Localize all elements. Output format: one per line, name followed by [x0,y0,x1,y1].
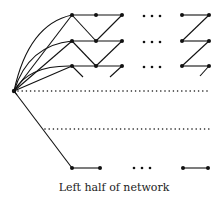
dotted-line-dot [63,90,65,92]
hub-node [12,89,16,93]
dotted-line-dot [135,90,137,92]
dotted-line-dot [189,90,191,92]
node [120,39,124,43]
dotted-line-dot [110,90,112,92]
dotted-line-dot [194,90,196,92]
dotted-line-dot [93,90,95,92]
dotted-line-dot [173,90,175,92]
dotted-line-dot [160,90,162,92]
dotted-line-dot [90,128,92,130]
dotted-line-dot [166,128,168,130]
dotted-line-dot [95,128,97,130]
dotted-line-dot [156,90,158,92]
dotted-line-dot [69,128,71,130]
hub-edge [14,91,72,168]
dotted-line-dot [86,128,88,130]
dotted-line-dot [164,90,166,92]
dotted-line-dot [114,90,116,92]
node [207,39,211,43]
dotted-line-dot [101,90,103,92]
dotted-line-dot [204,128,206,130]
node [180,13,184,17]
dotted-line-dot [42,90,44,92]
dotted-line-dot [208,128,210,130]
dotted-line-dot [177,90,179,92]
node [70,39,74,43]
dotted-line-dot [21,90,23,92]
ellipsis-dot [159,66,162,69]
dotted-line-dot [55,90,57,92]
node [94,39,98,43]
cross-edge [182,41,209,66]
node [98,166,102,170]
dotted-line-dot [103,128,105,130]
dotted-line-dot [118,90,120,92]
dotted-line-dot [147,90,149,92]
dotted-line-dot [76,90,78,92]
dotted-line-dot [51,90,53,92]
dotted-line-dot [152,90,154,92]
node [181,166,185,170]
hub-edge [14,66,72,91]
dotted-line-dot [57,128,59,130]
dotted-line-dot [59,90,61,92]
dotted-line-dot [122,90,124,92]
dotted-line-dot [206,90,208,92]
dotted-line-dot [82,128,84,130]
dotted-line-dot [143,90,145,92]
node [70,166,74,170]
dotted-line-dot [183,128,185,130]
node [207,13,211,17]
node [94,64,98,68]
node [180,39,184,43]
diagram-caption: Left half of network [0,181,224,194]
dotted-line-dot [158,128,160,130]
cross-edge [72,15,96,41]
dotted-line-dot [48,128,50,130]
dotted-line-dot [181,90,183,92]
dotted-line-dot [162,128,164,130]
dotted-line-dot [80,90,82,92]
ellipsis-dot [143,15,146,18]
dotted-line-dot [124,128,126,130]
dotted-line-dot [111,128,113,130]
dotted-line-dot [44,128,46,130]
dotted-line-dot [170,128,172,130]
dotted-line-dot [179,128,181,130]
dotted-line-dot [153,128,155,130]
dotted-line-dot [78,128,80,130]
dotted-line-dot [145,128,147,130]
dotted-line-dot [97,90,99,92]
stub-edge [110,66,122,77]
dotted-line-dot [38,90,40,92]
ellipsis-dot [151,66,154,69]
dotted-line-dot [105,90,107,92]
ellipsis-dot [149,167,152,170]
cross-edge [72,41,96,66]
ellipsis-dot [143,66,146,69]
dotted-line-dot [185,90,187,92]
node [207,64,211,68]
ellipsis-dot [143,41,146,44]
cross-edge [96,41,122,66]
dotted-line-dot [120,128,122,130]
ellipsis-dot [133,167,136,170]
dotted-line-dot [17,90,19,92]
dotted-line-dot [30,90,32,92]
dotted-line-dot [174,128,176,130]
node [94,13,98,17]
ellipsis-dot [159,41,162,44]
dotted-line-dot [34,90,36,92]
dotted-line-dot [187,128,189,130]
dotted-line-dot [137,128,139,130]
dotted-line-dot [26,90,28,92]
network-diagram [0,0,224,203]
ellipsis-dot [141,167,144,170]
node [120,64,124,68]
dotted-line-dot [141,128,143,130]
ellipsis-dot [151,41,154,44]
dotted-line-dot [139,90,141,92]
node [120,13,124,17]
dotted-line-dot [53,128,55,130]
node [70,13,74,17]
